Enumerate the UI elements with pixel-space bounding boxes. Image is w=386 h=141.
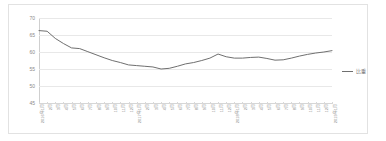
- y-tick-label-65: 65: [29, 33, 35, 38]
- x-tick-label: 5月: [171, 104, 175, 110]
- x-tick-label: 2月: [146, 104, 150, 110]
- x-axis-tick-labels: 2016年1月2月3月4月5月6月7月8月9月10月11月12月2017年1月2…: [39, 104, 332, 134]
- x-tick-label: 6月: [81, 104, 85, 110]
- x-tick-label: 8月: [98, 104, 102, 110]
- x-tick-label: 4月: [65, 104, 69, 110]
- x-tick-label: 5月: [268, 104, 272, 110]
- x-tick-label: 2017年1月: [138, 104, 142, 123]
- x-tick-label: 10月: [212, 104, 216, 112]
- x-tick-label: 4月: [260, 104, 264, 110]
- x-tick-label: 9月: [203, 104, 207, 110]
- x-tick-label: 12月: [228, 104, 232, 112]
- x-tick-label: 10月: [114, 104, 118, 112]
- x-tick-label: 7月: [285, 104, 289, 110]
- y-axis-tick-labels: 706560555045: [17, 18, 37, 103]
- x-tick-label: 10月: [309, 104, 313, 112]
- x-tick-label: 9月: [106, 104, 110, 110]
- x-tick-label: 8月: [293, 104, 297, 110]
- x-tick-label: 2019年1月: [334, 104, 338, 123]
- y-tick-label-55: 55: [29, 67, 35, 72]
- plot-area: [39, 18, 332, 103]
- y-tick-label-60: 60: [29, 50, 35, 55]
- legend-line-swatch-bizhong: [342, 71, 353, 72]
- x-tick-label: 7月: [89, 104, 93, 110]
- legend-label-bizhong: 比重: [356, 69, 366, 74]
- series-line-chart: [39, 18, 332, 103]
- x-tick-label: 7月: [187, 104, 191, 110]
- y-tick-label-45: 45: [29, 101, 35, 106]
- x-tick-label: 5月: [73, 104, 77, 110]
- x-tick-label: 9月: [301, 104, 305, 110]
- chart-legend: 比重: [342, 69, 366, 74]
- x-tick-label: 3月: [252, 104, 256, 110]
- x-tick-label: 11月: [122, 104, 126, 112]
- x-tick-label: 2月: [49, 104, 53, 110]
- x-tick-label: 6月: [179, 104, 183, 110]
- x-tick-label: 12月: [130, 104, 134, 112]
- x-tick-label: 8月: [195, 104, 199, 110]
- x-tick-label: 2018年1月: [236, 104, 240, 123]
- y-tick-label-50: 50: [29, 84, 35, 89]
- x-tick-label: 2月: [244, 104, 248, 110]
- x-tick-label: 12月: [325, 104, 329, 112]
- x-tick-label: 2016年1月: [41, 104, 45, 123]
- x-tick-label: 3月: [155, 104, 159, 110]
- x-tick-label: 4月: [163, 104, 167, 110]
- x-tick-label: 11月: [317, 104, 321, 112]
- chart-frame: 706560555045 2016年1月2月3月4月5月6月7月8月9月10月1…: [8, 4, 368, 134]
- series-path-bizhong: [39, 31, 332, 69]
- x-tick-label: 6月: [277, 104, 281, 110]
- x-tick-label: 11月: [220, 104, 224, 112]
- y-tick-label-70: 70: [29, 16, 35, 21]
- x-tick-label: 3月: [57, 104, 61, 110]
